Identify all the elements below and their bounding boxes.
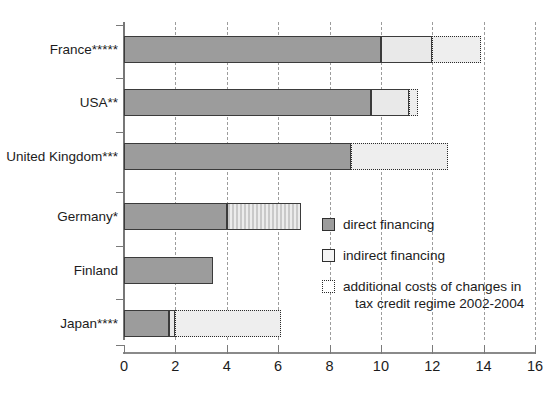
direct-financing-swatch-icon	[322, 218, 335, 231]
x-tick-label-2: 2	[155, 358, 195, 374]
legend-item-direct-financing: direct financing	[322, 216, 550, 233]
legend-label-direct-financing: direct financing	[343, 217, 434, 232]
legend-label-additional-costs: additional costs of changes in	[343, 279, 521, 294]
gridline-6	[278, 22, 279, 340]
category-label-germany: Germany*	[0, 203, 118, 230]
category-label-united-kingdom: United Kingdom***	[0, 143, 118, 170]
chart-legend: direct financing indirect financing addi…	[322, 216, 550, 326]
y-tick-0	[116, 25, 124, 26]
bar-segment-direct	[124, 36, 381, 63]
x-tick-label-16: 16	[515, 358, 555, 374]
y-tick-3	[116, 192, 124, 193]
y-tick-1	[116, 78, 124, 79]
x-tick-mark-6	[278, 345, 279, 354]
category-label-usa: USA**	[0, 89, 118, 116]
y-tick-4	[116, 246, 124, 247]
legend-item-indirect-financing: indirect financing	[322, 247, 550, 264]
x-tick-label-0: 0	[104, 358, 144, 374]
indirect-financing-swatch-icon	[322, 249, 335, 262]
gridline-4	[227, 22, 228, 340]
bar-segment-indirect	[227, 203, 302, 230]
bar-segment-direct	[124, 203, 227, 230]
bar-segment-indirect	[381, 36, 432, 63]
x-tick-mark-12	[432, 345, 433, 354]
x-tick-mark-16	[535, 345, 536, 354]
legend-label-additional-costs-line2: tax credit regime 2002-2004	[343, 295, 550, 312]
x-tick-mark-8	[330, 345, 331, 354]
x-tick-label-10: 10	[361, 358, 401, 374]
bar-segment-direct	[124, 143, 351, 170]
x-tick-mark-2	[175, 345, 176, 354]
y-tick-2	[116, 132, 124, 133]
bar-segment-additional	[175, 310, 280, 337]
bar-segment-additional	[409, 89, 418, 116]
x-tick-label-8: 8	[310, 358, 350, 374]
category-label-japan: Japan****	[0, 310, 118, 337]
y-tick-5	[116, 299, 124, 300]
gridline-2	[175, 22, 176, 340]
additional-costs-swatch-icon	[322, 280, 335, 293]
bar-segment-indirect	[371, 89, 410, 116]
x-tick-label-6: 6	[258, 358, 298, 374]
category-label-france: France*****	[0, 36, 118, 63]
category-label-finland: Finland	[0, 257, 118, 284]
bar-segment-direct	[124, 310, 169, 337]
legend-item-additional-costs: additional costs of changes in tax credi…	[322, 278, 550, 312]
bar-segment-indirect	[169, 310, 176, 337]
bar-segment-additional	[351, 143, 447, 170]
y-tick-6	[116, 345, 124, 346]
bar-segment-direct	[124, 257, 213, 284]
bar-segment-direct	[124, 89, 371, 116]
x-tick-label-12: 12	[412, 358, 452, 374]
x-tick-label-4: 4	[207, 358, 247, 374]
x-tick-mark-4	[227, 345, 228, 354]
x-tick-mark-10	[381, 345, 382, 354]
bar-segment-additional	[432, 36, 481, 63]
x-tick-mark-0	[124, 345, 125, 354]
bar-chart: France***** USA** United Kingdom*** Germ…	[0, 0, 559, 396]
x-tick-mark-14	[484, 345, 485, 354]
x-tick-label-14: 14	[464, 358, 504, 374]
legend-label-indirect-financing: indirect financing	[343, 248, 445, 263]
